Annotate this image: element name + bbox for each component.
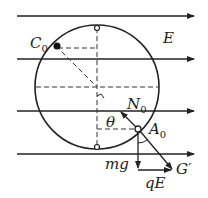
label-a0-sub: 0 bbox=[160, 129, 166, 140]
label-n0-sub: 0 bbox=[140, 104, 146, 115]
label-field-e: E bbox=[163, 31, 174, 46]
label-n0: N0 bbox=[127, 97, 147, 115]
ball-c0 bbox=[54, 43, 61, 50]
top-pivot bbox=[95, 26, 100, 31]
label-a0-main: A bbox=[149, 120, 160, 138]
label-c0-sub: 0 bbox=[41, 43, 47, 54]
label-theta: θ bbox=[106, 115, 115, 130]
right-angle-mark bbox=[97, 94, 104, 98]
label-c0-main: C bbox=[30, 34, 41, 52]
label-mg: mg bbox=[105, 157, 129, 172]
label-n0-main: N bbox=[127, 95, 140, 113]
label-g-prime: G′ bbox=[176, 162, 191, 177]
c0-to-center-diagonal bbox=[56, 46, 97, 87]
bottom-pivot bbox=[95, 145, 100, 150]
angle-arc-a0 bbox=[138, 140, 147, 143]
label-qe: qE bbox=[145, 176, 166, 191]
label-c0: C0 bbox=[30, 36, 48, 54]
label-a0: A0 bbox=[149, 122, 166, 140]
